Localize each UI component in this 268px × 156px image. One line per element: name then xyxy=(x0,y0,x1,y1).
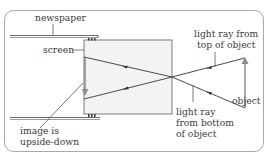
label-ray-bottom-1: light ray xyxy=(176,106,216,117)
label-screen: screen xyxy=(43,44,74,55)
label-ray-top-2: top of object xyxy=(197,39,256,50)
screen-box xyxy=(84,40,172,114)
label-object: object xyxy=(232,95,261,106)
label-image-2: upside-down xyxy=(20,136,79,147)
label-ray-bottom-3: of object xyxy=(176,128,217,139)
label-image-1: image is xyxy=(20,125,59,136)
label-ray-bottom-2: from bottom xyxy=(176,117,234,128)
label-newspaper: newspaper xyxy=(35,12,87,23)
label-ray-top-1: light ray from xyxy=(194,28,259,39)
pinhole-camera-diagram: newspaper screen light ray from top of o… xyxy=(0,0,268,156)
